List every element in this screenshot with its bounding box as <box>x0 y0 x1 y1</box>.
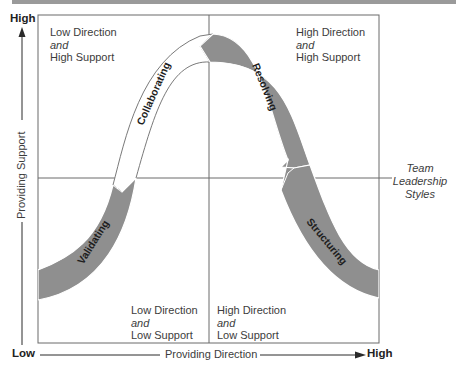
x-axis-arrow-icon <box>355 352 366 359</box>
y-axis-title: Providing Support <box>15 129 27 222</box>
y-axis-arrow-icon <box>19 27 26 37</box>
y-axis-high-label: High <box>10 12 36 24</box>
quadrant-label-top-left: Low Direction and High Support <box>50 26 117 64</box>
quadrant-label-bottom-left: Low Direction and Low Support <box>131 304 198 342</box>
quadrant-label-bottom-right: High Direction and Low Support <box>217 304 286 342</box>
quadrant-label-top-right: High Direction and High Support <box>296 26 365 64</box>
x-axis-high-label: High <box>367 347 393 359</box>
x-axis-title: Providing Direction <box>162 348 260 360</box>
x-axis-low-label: Low <box>12 347 35 359</box>
team-leadership-styles-label: Team Leadership Styles <box>384 162 456 201</box>
